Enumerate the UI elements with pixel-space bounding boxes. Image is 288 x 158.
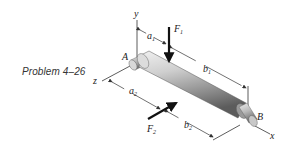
force-f2-label: F2 — [147, 124, 156, 135]
b2-extension-line — [213, 125, 240, 140]
shaft-diagram — [0, 0, 288, 158]
problem-figure: Problem 4–26 y z x A B F1 F2 a1 b1 a2 b2 — [0, 0, 288, 158]
dim-a2-label: a2 — [129, 86, 137, 97]
z-axis-line — [102, 66, 130, 81]
x-axis-line — [255, 126, 270, 134]
force-f2-arrow — [148, 103, 176, 119]
shaft-body — [135, 51, 250, 120]
point-b-label: B — [257, 112, 263, 122]
z-axis-label: z — [93, 76, 97, 86]
dim-b2-label: b2 — [184, 120, 192, 131]
dim-b1-label: b1 — [203, 64, 211, 75]
point-a-label: A — [122, 52, 128, 62]
force-f1-label: F1 — [174, 24, 183, 35]
problem-caption: Problem 4–26 — [22, 66, 85, 77]
dim-a1-label: a1 — [147, 31, 155, 42]
y-axis-label: y — [134, 9, 138, 19]
x-axis-label: x — [270, 131, 274, 141]
